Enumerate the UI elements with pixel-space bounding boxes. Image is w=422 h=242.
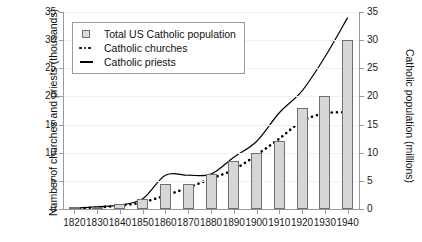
y-tick-label-left: 35 <box>45 7 56 17</box>
y-axis-title-left: Number of churches and priests (thousand… <box>47 16 59 216</box>
x-tick-label: 1910 <box>268 217 290 228</box>
y-axis-title-right: Catholic population (millions) <box>404 16 416 216</box>
y-tick-right <box>360 153 364 154</box>
bar-1920 <box>297 108 308 209</box>
x-tick <box>211 210 212 214</box>
x-tick-label: 1840 <box>109 217 131 228</box>
dotted-swatch-icon <box>79 47 101 50</box>
bar-1900 <box>251 153 262 209</box>
bar-1940 <box>342 40 353 209</box>
y-tick-right <box>360 96 364 97</box>
bar-1880 <box>206 174 217 209</box>
y-tick-right <box>360 40 364 41</box>
y-tick-right <box>360 12 364 13</box>
y-tick-right <box>360 209 364 210</box>
y-tick-label-right: 20 <box>367 91 378 101</box>
bar-1860 <box>160 184 171 209</box>
y-tick-label-left: 30 <box>45 35 56 45</box>
legend-item-churches[interactable]: Catholic churches <box>79 41 236 55</box>
bar-1870 <box>183 184 194 209</box>
y-tick-left <box>59 153 63 154</box>
y-tick-label-left: 10 <box>45 148 56 158</box>
y-tick-left <box>59 12 63 13</box>
line-swatch-icon <box>79 61 101 62</box>
chart-legend: Total US Catholic population Catholic ch… <box>72 22 245 74</box>
x-tick <box>143 210 144 214</box>
y-tick-label-left: 20 <box>45 91 56 101</box>
y-tick-right <box>360 181 364 182</box>
x-tick-label: 1930 <box>314 217 336 228</box>
x-tick <box>279 210 280 214</box>
gridline <box>63 12 359 13</box>
x-tick-label: 1850 <box>132 217 154 228</box>
x-tick-label: 1900 <box>245 217 267 228</box>
y-tick-label-right: 15 <box>367 120 378 130</box>
x-tick <box>97 210 98 214</box>
y-tick-left <box>59 125 63 126</box>
x-tick <box>302 210 303 214</box>
x-tick <box>188 210 189 214</box>
y-axis-left-line <box>63 12 64 210</box>
chart-container: Number of churches and priests (thousand… <box>0 0 422 242</box>
x-tick-label: 1940 <box>336 217 358 228</box>
bar-1890 <box>228 161 239 209</box>
x-tick <box>234 210 235 214</box>
y-tick-label-left: 0 <box>50 204 56 214</box>
x-tick-label: 1880 <box>200 217 222 228</box>
y-tick-right <box>360 125 364 126</box>
y-tick-label-right: 35 <box>367 7 378 17</box>
x-tick-label: 1830 <box>86 217 108 228</box>
x-tick <box>120 210 121 214</box>
gridline <box>63 125 359 126</box>
square-swatch-icon <box>79 30 101 38</box>
gridline <box>63 96 359 97</box>
y-tick-label-right: 10 <box>367 148 378 158</box>
x-tick <box>348 210 349 214</box>
bar-1930 <box>319 96 330 209</box>
legend-item-priests[interactable]: Catholic priests <box>79 55 236 69</box>
x-tick-label: 1890 <box>223 217 245 228</box>
x-tick-label: 1870 <box>177 217 199 228</box>
y-tick-label-left: 15 <box>45 120 56 130</box>
y-tick-label-left: 25 <box>45 63 56 73</box>
y-tick-label-left: 5 <box>50 176 56 186</box>
x-tick-label: 1820 <box>63 217 85 228</box>
y-tick-right <box>360 68 364 69</box>
x-tick <box>165 210 166 214</box>
x-tick <box>325 210 326 214</box>
legend-label: Catholic churches <box>104 42 187 54</box>
y-tick-label-right: 25 <box>367 63 378 73</box>
legend-item-population[interactable]: Total US Catholic population <box>79 27 236 41</box>
legend-label: Total US Catholic population <box>104 28 236 40</box>
y-tick-left <box>59 209 63 210</box>
x-tick <box>257 210 258 214</box>
gridline <box>63 153 359 154</box>
y-tick-label-right: 0 <box>367 204 373 214</box>
y-tick-label-right: 5 <box>367 176 373 186</box>
y-tick-label-right: 30 <box>367 35 378 45</box>
x-tick-label: 1920 <box>291 217 313 228</box>
x-tick <box>74 210 75 214</box>
y-tick-left <box>59 181 63 182</box>
bar-1850 <box>137 199 148 209</box>
y-tick-left <box>59 40 63 41</box>
legend-label: Catholic priests <box>104 56 176 68</box>
x-tick-label: 1860 <box>154 217 176 228</box>
bar-1910 <box>274 141 285 209</box>
y-tick-left <box>59 96 63 97</box>
y-tick-left <box>59 68 63 69</box>
